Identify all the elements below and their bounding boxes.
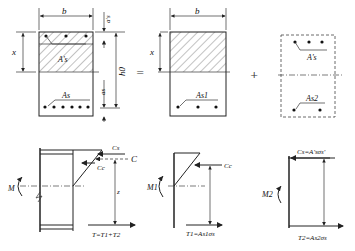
diagram-canvas: b x h0 a's as A's As = b x As1 + xyxy=(0,0,355,251)
concrete-section: b x As1 xyxy=(149,6,230,116)
full-section: b x h0 a's as A's As xyxy=(11,6,127,122)
compression-steel-label: A's xyxy=(306,53,317,62)
moment-label: M2 xyxy=(261,190,273,199)
compression-label: Cc xyxy=(224,162,233,170)
plus-sign: + xyxy=(250,69,258,80)
moment-label: M1 xyxy=(146,183,158,192)
compression-depth-label: x xyxy=(149,47,154,57)
lever-arm-label: z xyxy=(116,188,120,196)
tension-steel-label: As1 xyxy=(195,91,208,100)
concrete-compression-label: Cc xyxy=(97,164,106,172)
effective-depth-label: h0 xyxy=(117,67,127,77)
bottom-cover-label: as xyxy=(99,89,107,96)
equals-sign: = xyxy=(136,67,144,78)
compression-label: Cs=A'sσs' xyxy=(297,148,326,156)
tension-label: T=T1+T2 xyxy=(92,231,121,239)
tension-label: T1=As1σs xyxy=(186,230,215,238)
width-label: b xyxy=(195,6,200,16)
width-label: b xyxy=(62,6,67,16)
steel-force-diagram: Cs=A'sσs' M2 T2=As2σs xyxy=(261,148,343,242)
moment-label: M xyxy=(7,184,16,193)
total-compression-label: C xyxy=(131,154,138,164)
steel-section: A's As2 xyxy=(278,35,342,117)
tension-steel-label: As xyxy=(61,91,70,100)
steel-compression-label: Cs xyxy=(112,144,120,152)
full-force-diagram: M Cs C Cc z T=T1+T2 xyxy=(7,144,138,239)
concrete-force-diagram: M1 Cc T1=As1σs xyxy=(146,153,233,238)
compression-steel-label: A's xyxy=(57,55,68,64)
tension-steel-label: As2 xyxy=(305,94,318,103)
top-cover-label: a's xyxy=(104,15,112,23)
tension-label: T2=As2σs xyxy=(298,234,327,242)
compression-depth-label: x xyxy=(11,47,16,57)
